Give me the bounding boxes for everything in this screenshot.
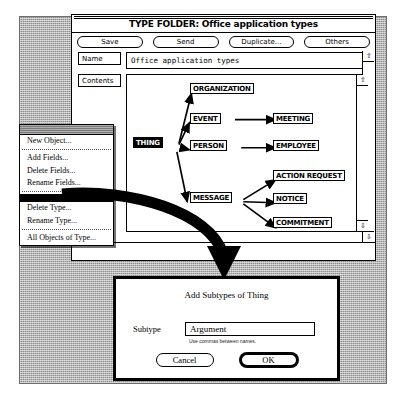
diagram-node-message[interactable]: MESSAGE — [190, 192, 232, 203]
menu-item-delete-fields[interactable]: Delete Fields... — [20, 165, 113, 178]
menu-separator — [22, 191, 111, 193]
diagram-node-organization[interactable]: ORGANIZATION — [190, 83, 254, 94]
menu-item-rename-fields[interactable]: Rename Fields... — [20, 177, 113, 190]
type-folder-window: TYPE FOLDER: Office application types Sa… — [71, 14, 376, 261]
name-field-row: Name Office application types — [72, 50, 375, 69]
menu-item-add-fields[interactable]: Add Fields... — [20, 152, 113, 165]
ok-button[interactable]: OK — [240, 353, 298, 367]
contents-field-row: Contents — [72, 72, 375, 232]
menu-item-delete-type[interactable]: Delete Type... — [20, 202, 113, 215]
menu-separator — [22, 149, 111, 151]
diagram-edges — [127, 75, 368, 232]
save-button[interactable]: Save — [77, 36, 143, 48]
menu-highlight-band — [20, 194, 113, 202]
subtype-input[interactable] — [185, 322, 315, 336]
cancel-button[interactable]: Cancel — [156, 353, 214, 367]
diagram-vertical-scrollbar[interactable]: ⇧ ⇩ — [356, 75, 368, 231]
name-input[interactable]: Office application types — [126, 52, 369, 69]
diagram-node-meeting[interactable]: MEETING — [273, 113, 313, 124]
menu-item-rename-type[interactable]: Rename Type... — [20, 215, 113, 228]
scroll-up-icon[interactable]: ⇧ — [357, 75, 368, 86]
window-horizontal-scrollbar[interactable] — [72, 242, 375, 260]
add-subtypes-dialog: Add Subtypes of Thing Subtype Use commas… — [113, 276, 340, 381]
subtype-label: Subtype — [133, 324, 185, 334]
menu-header-bar — [20, 125, 113, 135]
dialog-hint-text: Use commas between names. — [189, 338, 337, 344]
diagram-node-employee[interactable]: EMPLOYEE — [273, 140, 319, 151]
diagram-pane[interactable]: THING ORGANIZATION EVENT PERSON MESSAGE … — [126, 74, 369, 232]
scroll-down-icon[interactable]: ⇩ — [357, 220, 368, 231]
send-button[interactable]: Send — [153, 36, 219, 48]
window-toolbar: Save Send Duplicate... Others — [72, 33, 375, 50]
menu-item-new-object[interactable]: New Object... — [20, 135, 113, 148]
diagram-node-person[interactable]: PERSON — [190, 140, 227, 151]
dialog-title: Add Subtypes of Thing — [116, 290, 337, 300]
dialog-button-row: Cancel OK — [116, 353, 337, 367]
subtype-field-row: Subtype — [116, 322, 337, 336]
menu-item-all-objects-of-type[interactable]: All Objects of Type... — [20, 232, 113, 245]
window-titlebar[interactable]: TYPE FOLDER: Office application types — [72, 15, 375, 33]
context-menu: New Object... Add Fields... Delete Field… — [19, 124, 114, 246]
page-title: TYPE FOLDER: Office application types — [123, 19, 324, 29]
diagram-node-commitment[interactable]: COMMITMENT — [273, 217, 332, 228]
menu-separator — [22, 229, 111, 231]
scroll-track[interactable] — [357, 86, 368, 220]
duplicate-button[interactable]: Duplicate... — [229, 36, 295, 48]
diagram-node-action-request[interactable]: ACTION REQUEST — [273, 170, 345, 181]
others-button[interactable]: Others — [304, 36, 370, 48]
window-scroll-down-icon[interactable]: ⇩ — [363, 231, 374, 242]
contents-field-label: Contents — [78, 74, 121, 87]
name-field-label: Name — [78, 52, 121, 65]
window-scroll-up-icon[interactable]: ⇧ — [363, 51, 374, 62]
diagram-node-event[interactable]: EVENT — [190, 113, 221, 124]
diagram-node-thing[interactable]: THING — [133, 137, 163, 148]
diagram-node-notice[interactable]: NOTICE — [273, 193, 307, 204]
